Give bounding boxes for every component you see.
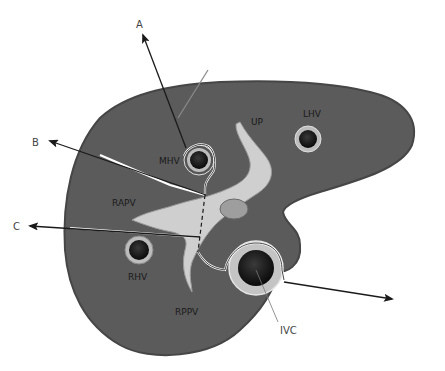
liver-diagram: MHV LHV UP RAPV RHV RPPV IVC A B C xyxy=(0,0,445,371)
lhv-vessel xyxy=(295,126,321,152)
label-up: UP xyxy=(251,117,264,127)
label-mhv: MHV xyxy=(159,156,181,166)
label-rapv: RAPV xyxy=(112,198,136,208)
rhv-vessel xyxy=(125,236,153,264)
label-plane-b: B xyxy=(32,137,39,148)
label-ivc: IVC xyxy=(280,325,297,336)
right-arrow xyxy=(284,282,392,299)
label-lhv: LHV xyxy=(303,109,322,119)
label-rppv: RPPV xyxy=(175,307,199,317)
label-plane-c: C xyxy=(13,221,20,232)
portal-branch-oval xyxy=(220,199,248,219)
label-rhv: RHV xyxy=(128,272,148,282)
label-plane-a: A xyxy=(136,19,143,30)
